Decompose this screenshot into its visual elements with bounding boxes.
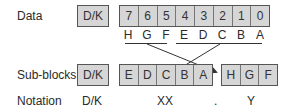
subblock-cell: F <box>258 65 277 85</box>
subblock-cell: A <box>193 65 212 85</box>
subblock-cell: D <box>138 65 157 85</box>
subblock-cell: C <box>156 65 175 85</box>
subblock-cell: E <box>120 65 138 85</box>
subblock-cell: G <box>240 65 259 85</box>
subblock-cell: B <box>175 65 194 85</box>
subblock-dk-cell: D/K <box>78 65 108 85</box>
subblock-cell: H <box>222 65 240 85</box>
subblock-xx-box: E D C B A <box>119 64 213 86</box>
notation-dot: . <box>214 94 217 108</box>
subblock-dk-box: D/K <box>77 64 109 86</box>
notation-dk: D/K <box>82 94 102 108</box>
mapping-overlay <box>0 0 288 111</box>
subblock-y-box: H G F <box>221 64 278 86</box>
notation-y: Y <box>247 94 255 108</box>
notation-xx: XX <box>157 94 173 108</box>
